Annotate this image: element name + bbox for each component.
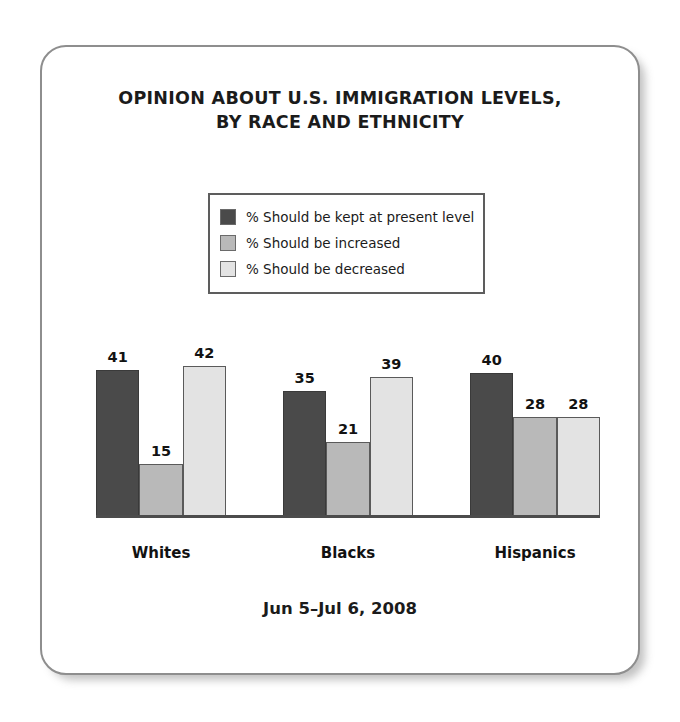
category-label: Hispanics xyxy=(470,544,600,562)
bar-value-label: 40 xyxy=(470,352,513,368)
bar-group: 402828Hispanics xyxy=(470,337,600,518)
bar-column: 40 xyxy=(470,337,513,518)
chart-legend: % Should be kept at present level% Shoul… xyxy=(208,193,485,294)
legend-swatch-icon xyxy=(220,209,236,225)
bar-column: 15 xyxy=(139,337,182,518)
bar-value-label: 28 xyxy=(513,396,556,412)
bar-value-label: 28 xyxy=(557,396,600,412)
category-label: Blacks xyxy=(283,544,413,562)
legend-swatch-icon xyxy=(220,235,236,251)
chart-page: OPINION ABOUT U.S. IMMIGRATION LEVELS, B… xyxy=(0,0,680,722)
bar-column: 35 xyxy=(283,337,326,518)
bar-value-label: 35 xyxy=(283,370,326,386)
chart-plot-area: 411542Whites352139Blacks402828Hispanics xyxy=(74,337,610,572)
bar xyxy=(370,377,413,518)
legend-item: % Should be decreased xyxy=(220,256,471,282)
chart-title-line-2: BY RACE AND ETHNICITY xyxy=(42,111,638,135)
bar xyxy=(183,366,226,518)
bar xyxy=(470,373,513,518)
bar-value-label: 41 xyxy=(96,349,139,365)
chart-footer-date: Jun 5–Jul 6, 2008 xyxy=(42,599,638,618)
bar-column: 28 xyxy=(513,337,556,518)
bar-value-label: 39 xyxy=(370,356,413,372)
bar-column: 28 xyxy=(557,337,600,518)
legend-item: % Should be kept at present level xyxy=(220,204,471,230)
chart-title: OPINION ABOUT U.S. IMMIGRATION LEVELS, B… xyxy=(42,87,638,134)
bar-group: 352139Blacks xyxy=(283,337,413,518)
axis-baseline xyxy=(96,515,600,518)
bar xyxy=(283,391,326,518)
bar xyxy=(96,370,139,518)
bar xyxy=(513,417,556,518)
bar-column: 41 xyxy=(96,337,139,518)
bar xyxy=(557,417,600,518)
bar-column: 21 xyxy=(326,337,369,518)
bar-value-label: 15 xyxy=(139,443,182,459)
bar xyxy=(326,442,369,518)
bar-value-label: 21 xyxy=(326,421,369,437)
legend-item-label: % Should be decreased xyxy=(246,261,405,277)
bar-group: 411542Whites xyxy=(96,337,226,518)
bar-column: 42 xyxy=(183,337,226,518)
bar xyxy=(139,464,182,518)
chart-card: OPINION ABOUT U.S. IMMIGRATION LEVELS, B… xyxy=(40,45,640,675)
bar-value-label: 42 xyxy=(183,345,226,361)
category-label: Whites xyxy=(96,544,226,562)
bar-column: 39 xyxy=(370,337,413,518)
legend-item-label: % Should be kept at present level xyxy=(246,209,474,225)
legend-item: % Should be increased xyxy=(220,230,471,256)
chart-title-line-1: OPINION ABOUT U.S. IMMIGRATION LEVELS, xyxy=(42,87,638,111)
legend-item-label: % Should be increased xyxy=(246,235,400,251)
legend-swatch-icon xyxy=(220,261,236,277)
